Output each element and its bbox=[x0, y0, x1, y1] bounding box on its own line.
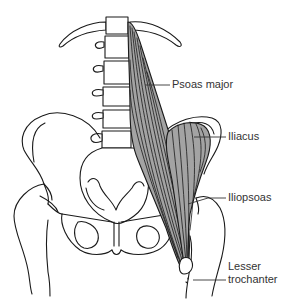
lesser-trochanter-bone bbox=[179, 258, 192, 284]
label-iliacus: Iliacus bbox=[228, 130, 259, 143]
anatomy-diagram bbox=[0, 0, 287, 301]
label-lesser-trochanter-line1: Lesser bbox=[228, 260, 278, 273]
lumbar-spine bbox=[91, 17, 131, 148]
label-lesser-trochanter-line2: trochanter bbox=[228, 273, 278, 286]
label-psoas-major: Psoas major bbox=[172, 78, 233, 91]
label-iliopsoas: Iliopsoas bbox=[228, 191, 271, 204]
label-lesser-trochanter: Lesser trochanter bbox=[228, 260, 278, 286]
